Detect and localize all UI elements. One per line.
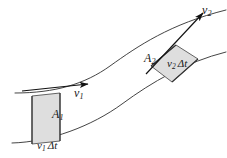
velocity-1-label: v1 (74, 87, 84, 101)
displacement-2-delta-t: Δt (176, 57, 187, 69)
velocity-2-label: v2 (202, 4, 212, 18)
displacement-1-label: v1Δt (37, 140, 57, 153)
displacement-1-delta-t: Δt (46, 139, 57, 151)
area-1-subscript: 1 (59, 113, 63, 122)
velocity-1-subscript: 1 (79, 92, 83, 101)
displacement-2-label: v2Δt (167, 58, 187, 71)
fluid-continuity-figure: v1 v2 A1 A2 v1Δt v2Δt (0, 0, 227, 158)
figure-canvas (0, 0, 227, 158)
velocity-2-subscript: 2 (207, 9, 211, 18)
area-2-subscript: 2 (151, 57, 155, 66)
area-1-label: A1 (52, 108, 64, 122)
area-2-label: A2 (144, 52, 156, 66)
